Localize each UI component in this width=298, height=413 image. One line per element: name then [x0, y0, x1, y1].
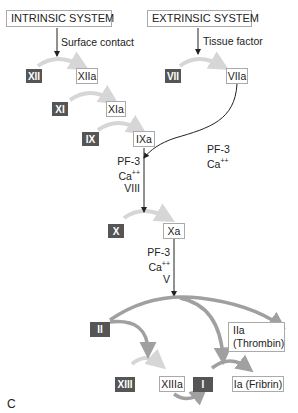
tissue-factor-label: Tissue factor [203, 35, 263, 47]
factor-xiiia: XIIIa [159, 376, 185, 392]
factor-xi: XI [52, 102, 68, 116]
ixa-cofactors: PF-3 Ca++ VIII [110, 155, 140, 194]
factor-xiia: XIIa [76, 68, 98, 84]
factor-xia: XIa [106, 101, 126, 117]
intrinsic-system-box: INTRINSIC SYSTEM [6, 10, 112, 27]
extrinsic-cofactors: PF-3 Ca++ [207, 143, 230, 170]
factor-ia-fibrin: Ia (Fribrin) [232, 376, 284, 392]
panel-label: C [7, 398, 16, 410]
factor-viia: VIIa [226, 68, 248, 84]
extrinsic-system-box: EXTRINSIC SYSTEM [147, 10, 252, 27]
factor-ixa: IXa [133, 131, 155, 147]
factor-xiii: XIII [115, 377, 135, 392]
factor-xa: Xa [163, 223, 185, 239]
factor-vii: VII [165, 69, 181, 83]
factor-xii: XII [26, 69, 42, 83]
factor-i: I [193, 377, 213, 392]
factor-ix: IX [82, 132, 99, 146]
xa-cofactors: PF-3 Ca++ V [138, 246, 170, 285]
factor-x: X [108, 224, 124, 238]
factor-ii: II [90, 322, 110, 337]
surface-contact-label: Surface contact [61, 36, 134, 48]
factor-iia-thrombin: IIa (Thrombin) [228, 322, 285, 352]
